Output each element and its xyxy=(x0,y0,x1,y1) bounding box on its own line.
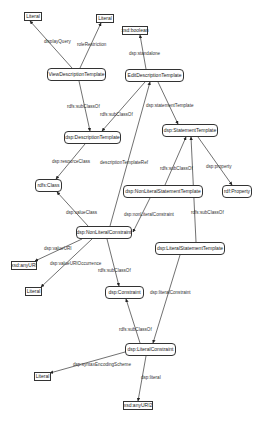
edge-label: rdfs:subClassOf xyxy=(160,166,193,171)
node-nonLitStmtTemplate: dsp:NonLiteralStatementTemplate xyxy=(123,185,203,198)
edge-label: dsp:valueURIOccurrence xyxy=(50,261,101,266)
edge-label: rdfs:subClassOf xyxy=(67,104,100,109)
edge-statementTemplate-to-rdfProperty xyxy=(198,137,232,185)
edges-layer xyxy=(0,0,264,421)
node-rdfProperty: rdf:Property xyxy=(222,185,252,198)
node-literal1: Literal xyxy=(24,12,42,21)
node-xsdAnyURI1: xsd:anyURI xyxy=(11,261,37,270)
edge-label: dsp:statementTemplate xyxy=(146,103,194,108)
edge-litConstraint-to-constraint xyxy=(126,299,140,343)
edge-label: dsp:valueClass xyxy=(66,210,97,215)
node-xsdAnyURI2: xsd:anyURI2 xyxy=(123,401,153,410)
rdf-class-diagram: displayQueryroleRestrictiondsp:standalon… xyxy=(0,0,264,421)
edge-viewDescTemplate-to-literal1 xyxy=(30,21,72,68)
edge-nonLitConstraint-to-constraint xyxy=(107,239,119,286)
edge-label: dsp:nonLiteralConstraint xyxy=(124,212,174,217)
node-rdfsClass: rdfs:Class xyxy=(35,179,62,192)
edge-label: rdfs:subClassOf xyxy=(191,210,224,215)
edge-label: dsp:property xyxy=(206,164,232,169)
edge-label: dsp:literalConstraint xyxy=(150,290,191,295)
edge-label: rdfs:subClassOf xyxy=(98,268,131,273)
edge-nonLitConstraint-to-rdfsClass xyxy=(57,192,88,226)
node-viewDescTemplate: ViewDescriptionTemplate xyxy=(47,68,106,81)
edge-label: rdfs:subClassOf xyxy=(100,112,133,117)
node-statementTemplate: dsp:StatementTemplate xyxy=(162,124,218,137)
edge-nonLitStmtTemplate-to-statementTemplate xyxy=(165,137,186,185)
edge-label: dsp:resourceClass xyxy=(52,159,90,164)
edge-label: dsp:valueURI xyxy=(44,246,72,251)
node-descTemplate: dsp:DescriptionTemplate xyxy=(64,131,121,144)
edge-label: displayQuery xyxy=(44,39,71,44)
edge-litStmtTemplate-to-litConstraint xyxy=(153,255,180,343)
node-constraint: dsp:Constraint xyxy=(105,286,144,299)
node-literal2: Literal xyxy=(96,14,114,23)
edge-label: rdfs:subClassOf xyxy=(119,327,152,332)
edge-label: dsp:literal xyxy=(141,375,161,380)
node-litStmtTemplate: dsp:LiteralStatementTemplate xyxy=(155,242,225,255)
edge-label: roleRestriction xyxy=(77,42,106,47)
edge-label: dsp:standalone xyxy=(129,51,160,56)
node-nonLitConstraint: dsp:NonLiteralConstraint xyxy=(76,226,132,239)
node-literal3: Literal xyxy=(25,287,42,296)
edge-label: descriptionTemplateRef xyxy=(100,160,148,165)
edge-label: dsp:syntaxEncodingScheme xyxy=(73,362,131,367)
edge-nonLitConstraint-to-editDescTemplate xyxy=(110,82,150,226)
node-literal4: Literal xyxy=(34,372,51,381)
node-xsdBoolean: xsd:boolean xyxy=(122,26,148,35)
node-litConstraint: dsp:LiteralConstraint xyxy=(125,343,176,356)
node-editDescTemplate: EditDescriptionTemplate xyxy=(125,69,184,82)
